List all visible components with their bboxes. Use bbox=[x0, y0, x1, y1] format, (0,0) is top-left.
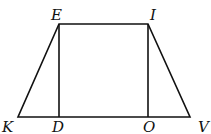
trapezoid-outline bbox=[18, 24, 190, 117]
label-K: K bbox=[1, 118, 14, 134]
label-V: V bbox=[198, 118, 211, 134]
label-E: E bbox=[50, 6, 62, 24]
label-O: O bbox=[143, 118, 155, 134]
label-D: D bbox=[51, 118, 64, 134]
label-I: I bbox=[149, 6, 157, 24]
trapezoid-diagram: E I K D O V bbox=[0, 0, 211, 134]
